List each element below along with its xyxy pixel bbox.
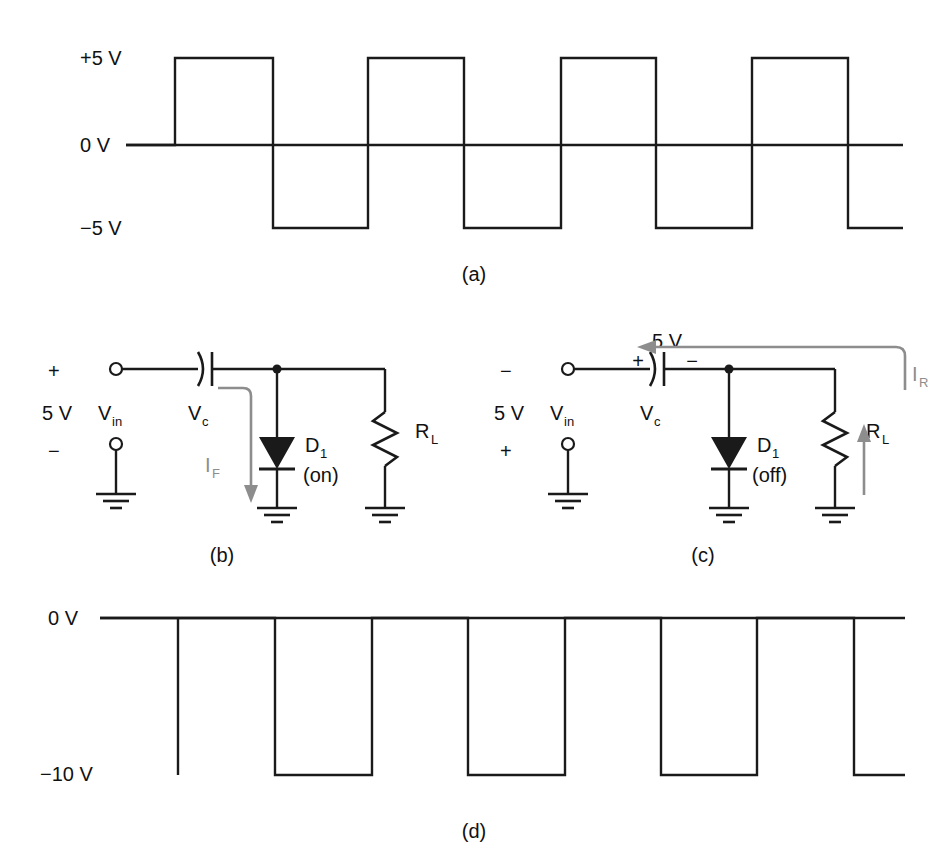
panel-b-vc-sub: c	[202, 414, 209, 429]
panel-b-source-minus: −	[48, 440, 60, 462]
panel-d-label-minus10: −10 V	[40, 763, 93, 785]
panel-b-ground-symbol-left	[96, 494, 136, 508]
panel-a: +5 V 0 V −5 V (a)	[80, 47, 903, 285]
panel-c-vc-label: V	[640, 402, 654, 424]
panel-c-diode-triangle	[711, 437, 747, 469]
panel-c-ground-symbol-left	[548, 494, 588, 508]
panel-d-caption: (d)	[462, 820, 486, 842]
panel-b-resistor-label: R	[415, 420, 429, 442]
panel-c-resistor-sub: L	[882, 432, 889, 447]
panel-c-vc-sub: c	[654, 414, 661, 429]
panel-c-diode-sub: 1	[772, 446, 779, 461]
panel-b-bottom-terminal	[110, 438, 122, 450]
panel-c-source-plus: +	[500, 440, 512, 462]
panel-b: + 5 V − V in V c I F	[42, 352, 438, 566]
panel-c-diode-label: D	[757, 434, 771, 456]
panel-b-capacitor-plate-curved	[198, 352, 203, 386]
panel-b-vc-label: V	[188, 402, 202, 424]
panel-c-top-terminal	[562, 363, 574, 375]
panel-b-source-value: 5 V	[42, 402, 73, 424]
panel-d: 0 V −10 V (d)	[40, 607, 905, 842]
panel-c-caption: (c)	[691, 544, 714, 566]
panel-c-ir-sub: R	[919, 375, 928, 390]
panel-b-if-sub: F	[212, 466, 220, 481]
panel-b-resistor-sub: L	[431, 432, 438, 447]
panel-d-label-zero: 0 V	[48, 607, 79, 629]
panel-b-diode-label: D	[305, 434, 319, 456]
panel-c-capacitor-plate-curved	[650, 352, 655, 386]
panel-a-label-minus5: −5 V	[80, 217, 122, 239]
panel-c-cap-voltage: 5 V	[652, 330, 683, 352]
panel-b-diode-state: (on)	[303, 464, 339, 486]
panel-b-ground-symbol-resistor	[365, 508, 405, 522]
panel-c-source-minus: −	[500, 360, 512, 382]
panel-b-top-terminal	[110, 363, 122, 375]
figure-container: +5 V 0 V −5 V (a) + 5 V − V in V c	[0, 0, 948, 865]
panel-a-waveform	[126, 58, 903, 228]
panel-b-if-label: I	[205, 454, 211, 476]
panel-b-current-arrow-if	[218, 388, 258, 503]
panel-b-diode-triangle	[259, 437, 295, 469]
panel-c-vin-label: V	[550, 402, 564, 424]
panel-a-label-zero: 0 V	[80, 134, 111, 156]
panel-b-resistor-zigzag	[373, 412, 397, 466]
panel-c-bottom-terminal	[562, 438, 574, 450]
panel-c-ground-symbol-resistor	[815, 508, 855, 522]
panel-c-vin-sub: in	[564, 414, 574, 429]
figure-svg: +5 V 0 V −5 V (a) + 5 V − V in V c	[0, 0, 948, 865]
panel-c-resistor-zigzag	[823, 412, 847, 466]
panel-a-label-plus5: +5 V	[80, 47, 122, 69]
panel-c-ground-symbol-diode	[709, 508, 749, 522]
panel-b-caption: (b)	[210, 544, 234, 566]
panel-c-diode-state: (off)	[752, 464, 787, 486]
panel-b-ground-symbol-diode	[257, 508, 297, 522]
panel-b-vin-label: V	[98, 402, 112, 424]
panel-b-source-plus: +	[48, 360, 60, 382]
panel-c-ir-label: I	[912, 363, 918, 385]
panel-b-diode-sub: 1	[320, 446, 327, 461]
panel-c-cap-polarity-left: +	[632, 350, 644, 372]
panel-c-source-value: 5 V	[494, 402, 525, 424]
panel-c: − 5 V + V in 5 V + − V c	[494, 330, 928, 566]
panel-b-vin-sub: in	[112, 414, 122, 429]
panel-a-caption: (a)	[462, 263, 486, 285]
panel-d-waveform	[100, 618, 905, 775]
